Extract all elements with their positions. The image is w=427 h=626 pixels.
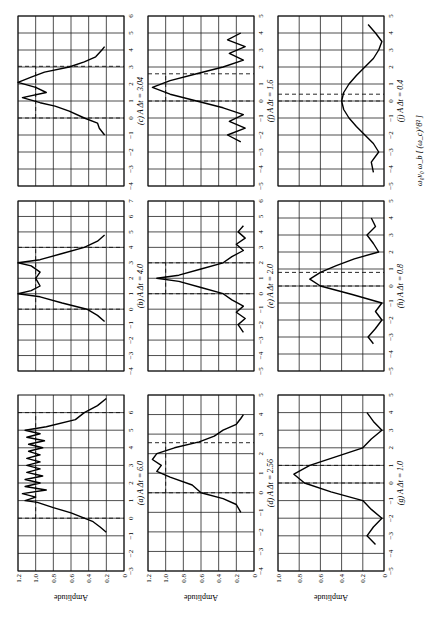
svg-text:−1: −1	[387, 114, 395, 122]
rotated-figure: −3−2−1012345600.20.40.60.81.01.2(a) A Δt…	[0, 0, 427, 626]
svg-text:−1: −1	[257, 305, 265, 313]
svg-text:4: 4	[127, 48, 135, 52]
svg-text:−3: −3	[387, 333, 395, 341]
svg-text:1: 1	[257, 276, 265, 280]
svg-text:−1: −1	[127, 131, 135, 139]
svg-text:4: 4	[257, 230, 265, 234]
svg-text:3: 3	[257, 48, 265, 52]
svg-text:−4: −4	[127, 182, 135, 190]
svg-text:−3: −3	[127, 165, 135, 173]
curve-c	[18, 47, 105, 135]
svg-text:4: 4	[257, 31, 265, 35]
panel-label: (f) A Δt = 1.6	[266, 80, 275, 122]
svg-text:0.2: 0.2	[103, 574, 111, 583]
svg-text:−2: −2	[257, 528, 265, 536]
svg-text:−5: −5	[257, 182, 265, 190]
svg-text:−2: −2	[257, 131, 265, 139]
svg-text:2: 2	[257, 261, 265, 265]
svg-text:−4: −4	[387, 549, 395, 557]
svg-text:1: 1	[257, 82, 265, 86]
panel-g: −5−4−3−2−101234500.20.40.60.81.0(g) A Δt…	[275, 393, 406, 602]
svg-text:−3: −3	[127, 351, 135, 359]
svg-text:0: 0	[257, 291, 265, 295]
svg-text:6: 6	[257, 199, 265, 203]
panel-label: (b) A Δt = 4.0	[136, 264, 145, 308]
svg-text:3: 3	[127, 65, 135, 69]
svg-text:0: 0	[387, 284, 395, 288]
svg-text:0: 0	[257, 491, 265, 495]
svg-text:3: 3	[387, 428, 395, 432]
svg-text:2: 2	[127, 276, 135, 280]
svg-text:−4: −4	[257, 351, 265, 359]
svg-text:−2: −2	[387, 131, 395, 139]
svg-text:−2: −2	[127, 336, 135, 344]
panel-label: (j) A Δt = 0.4	[396, 80, 405, 122]
svg-text:5: 5	[127, 428, 135, 432]
svg-text:2: 2	[387, 65, 395, 69]
svg-text:2: 2	[257, 451, 265, 455]
svg-text:3: 3	[257, 245, 265, 249]
svg-text:−1: −1	[387, 496, 395, 504]
svg-text:−5: −5	[387, 182, 395, 190]
svg-text:−3: −3	[387, 532, 395, 540]
svg-text:6: 6	[127, 410, 135, 414]
svg-text:−2: −2	[387, 316, 395, 324]
svg-text:3: 3	[127, 261, 135, 265]
svg-text:0.8: 0.8	[50, 574, 58, 583]
svg-text:−3: −3	[387, 148, 395, 156]
svg-text:0.8: 0.8	[296, 574, 304, 583]
svg-text:1.0: 1.0	[162, 574, 170, 583]
chart-grid: −3−2−1012345600.20.40.60.81.01.2(a) A Δt…	[0, 0, 427, 626]
panel-j: −5−4−3−2−1012345(j) A Δt = 0.4	[278, 14, 405, 190]
svg-text:1: 1	[387, 82, 395, 86]
svg-text:1: 1	[387, 463, 395, 467]
svg-text:0: 0	[251, 574, 259, 578]
curve-f	[152, 33, 245, 142]
svg-text:1: 1	[127, 99, 135, 103]
svg-text:0.6: 0.6	[198, 574, 206, 583]
svg-text:1: 1	[127, 291, 135, 295]
svg-text:−2: −2	[127, 148, 135, 156]
panel-label: (d) A Δt = 2.56	[266, 459, 275, 507]
svg-text:1.2: 1.2	[145, 574, 153, 583]
svg-text:2: 2	[387, 250, 395, 254]
svg-text:6: 6	[127, 14, 135, 18]
svg-text:5: 5	[127, 230, 135, 234]
svg-text:2: 2	[127, 481, 135, 485]
svg-text:4: 4	[257, 412, 265, 416]
svg-text:6: 6	[127, 214, 135, 218]
svg-text:−1: −1	[127, 532, 135, 540]
svg-text:−4: −4	[387, 165, 395, 173]
svg-text:5: 5	[257, 214, 265, 218]
caption-fragment: ω₀ν₀ ω_b [ (ω_c)^8² ]	[415, 115, 424, 186]
svg-text:−4: −4	[257, 165, 265, 173]
svg-text:1.2: 1.2	[15, 574, 23, 583]
svg-text:0: 0	[257, 99, 265, 103]
curve-j	[342, 25, 382, 173]
svg-text:5: 5	[387, 14, 395, 18]
svg-text:3: 3	[127, 463, 135, 467]
panel-label: (a) A Δt = 6.0	[136, 461, 145, 505]
svg-text:−1: −1	[257, 114, 265, 122]
panel-label: (h) A Δt = 0.8	[396, 264, 405, 308]
svg-text:5: 5	[387, 393, 395, 397]
svg-text:1: 1	[127, 498, 135, 502]
svg-text:−3: −3	[257, 547, 265, 555]
svg-text:1.0: 1.0	[275, 574, 283, 583]
panel-label: (g) A Δt = 1.0	[396, 461, 405, 505]
svg-text:1: 1	[257, 471, 265, 475]
svg-text:4: 4	[127, 446, 135, 450]
svg-text:1.0: 1.0	[32, 574, 40, 583]
panel-label: (c) A Δt = 3.04	[136, 77, 145, 125]
svg-text:0.8: 0.8	[180, 574, 188, 583]
svg-text:−2: −2	[387, 514, 395, 522]
svg-text:0: 0	[127, 307, 135, 311]
y-axis-label: Amplitude	[183, 593, 218, 602]
svg-text:−3: −3	[257, 336, 265, 344]
svg-text:0.2: 0.2	[233, 574, 241, 583]
svg-text:0.4: 0.4	[215, 574, 223, 583]
svg-text:−1: −1	[257, 508, 265, 516]
svg-text:0: 0	[127, 516, 135, 520]
y-axis-label: Amplitude	[313, 593, 348, 602]
svg-text:2: 2	[257, 65, 265, 69]
